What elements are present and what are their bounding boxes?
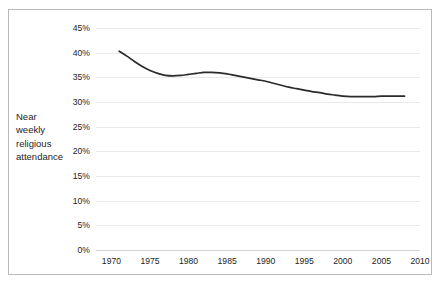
y-tick-label: 10% [73,196,90,206]
y-tick-label: 40% [73,48,90,58]
y-tick-label: 25% [73,122,90,132]
y-tick-label: 30% [73,97,90,107]
y-tick-label: 45% [73,23,90,33]
x-tick-label: 2005 [372,256,391,266]
x-tick-label: 2010 [410,256,429,266]
x-tick-label: 2000 [333,256,352,266]
y-tick-label: 35% [73,72,90,82]
plot-area: 0%5%10%15%20%25%30%35%40%45% 19701975198… [96,28,420,250]
y-tick-label: 5% [78,220,90,230]
x-tick-label: 1985 [218,256,237,266]
x-tick-label: 1970 [102,256,121,266]
x-tick-label: 1980 [179,256,198,266]
y-tick-label: 20% [73,146,90,156]
gridline [96,250,420,251]
x-tick-label: 1990 [256,256,275,266]
y-tick-label: 15% [73,171,90,181]
x-tick-label: 1975 [140,256,159,266]
y-tick-label: 0% [78,245,90,255]
line-series [96,28,420,250]
x-tick-label: 1995 [295,256,314,266]
chart-figure: Near weekly religious attendance 0%5%10%… [0,0,442,286]
line-series-path [119,51,404,96]
